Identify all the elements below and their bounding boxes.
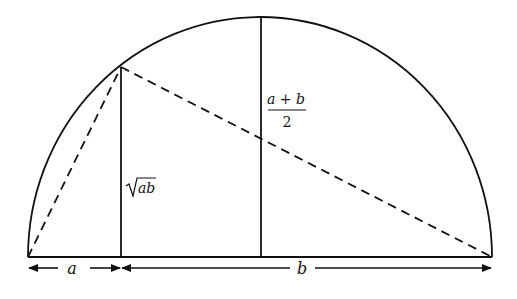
- am-gm-diagram: a b ab a + b 2: [0, 0, 517, 299]
- sqrt-radicand: ab: [138, 180, 155, 196]
- geometric-mean-label: ab: [126, 178, 156, 196]
- left-chord-dashed: [28, 67, 121, 257]
- right-chord-dashed: [121, 67, 492, 257]
- segment-b-label: b: [297, 259, 307, 278]
- arithmetic-mean-label: a + b 2: [267, 91, 306, 130]
- fraction-denominator: 2: [283, 114, 292, 130]
- fraction-numerator: a + b: [267, 91, 305, 107]
- segment-a-label: a: [67, 259, 77, 278]
